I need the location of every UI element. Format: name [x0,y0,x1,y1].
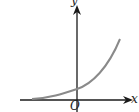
y-axis-label: y [71,0,78,6]
x-axis-label: x [131,93,138,105]
graph-canvas [0,0,139,112]
origin-label: O [70,100,80,112]
exponential-curve [32,39,120,99]
